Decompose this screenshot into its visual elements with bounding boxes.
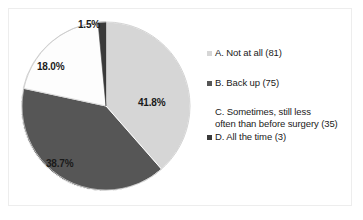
pie-svg [18,18,194,194]
legend-label-c-line2: often than before surgery (35) [215,118,338,130]
pie-label-a: 41.8% [138,97,165,108]
legend-item-a[interactable]: A. Not at all (81) [207,47,353,59]
pie-label-b: 38.7% [46,158,73,169]
legend-label-c: C. Sometimes, still less often than befo… [215,106,338,129]
legend-label-d: D. All the time (3) [215,131,286,143]
pie-graphic: 1.5% 18.0% 41.8% 38.7% [18,18,194,194]
legend-label-c-line1: C. Sometimes, still less [215,106,311,117]
legend-swatch-icon-c [207,110,212,115]
pie-chart: 1.5% 18.0% 41.8% 38.7% A. Not at all (81… [9,9,353,207]
chart-frame: 1.5% 18.0% 41.8% 38.7% A. Not at all (81… [8,8,352,206]
legend-swatch-icon-a [207,51,212,56]
pie-label-c: 18.0% [37,61,64,72]
legend-item-d[interactable]: D. All the time (3) [207,131,353,143]
legend-swatch-icon-b [207,81,212,86]
legend-label-b: B. Back up (75) [215,77,279,89]
legend-item-b[interactable]: B. Back up (75) [207,77,353,89]
chart-legend: A. Not at all (81) B. Back up (75) C. So… [207,47,353,143]
legend-item-c[interactable]: C. Sometimes, still less often than befo… [207,106,353,129]
legend-swatch-icon-d [207,135,212,140]
pie-label-d: 1.5% [78,19,100,30]
legend-label-a: A. Not at all (81) [215,47,282,59]
